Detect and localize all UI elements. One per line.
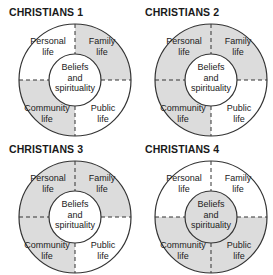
life-circle-diagram: PersonallifeFamilylifeCommunitylifePubli… xyxy=(136,137,272,275)
diagram-christians-2: CHRISTIANS 2 PersonallifeFamilylifeCommu… xyxy=(136,0,272,137)
diagram-christians-4: CHRISTIANS 4 PersonallifeFamilylifeCommu… xyxy=(136,137,272,274)
life-circle-diagram: PersonallifeFamilylifeCommunitylifePubli… xyxy=(136,0,272,137)
diagram-christians-3: CHRISTIANS 3 PersonallifeFamilylifeCommu… xyxy=(0,137,136,274)
life-circle-diagram: PersonallifeFamilylifeCommunitylifePubli… xyxy=(0,137,136,275)
diagram-christians-1: CHRISTIANS 1 PersonallifeFamilylifeCommu… xyxy=(0,0,136,137)
life-circle-diagram: PersonallifeFamilylifeCommunitylifePubli… xyxy=(0,0,136,137)
